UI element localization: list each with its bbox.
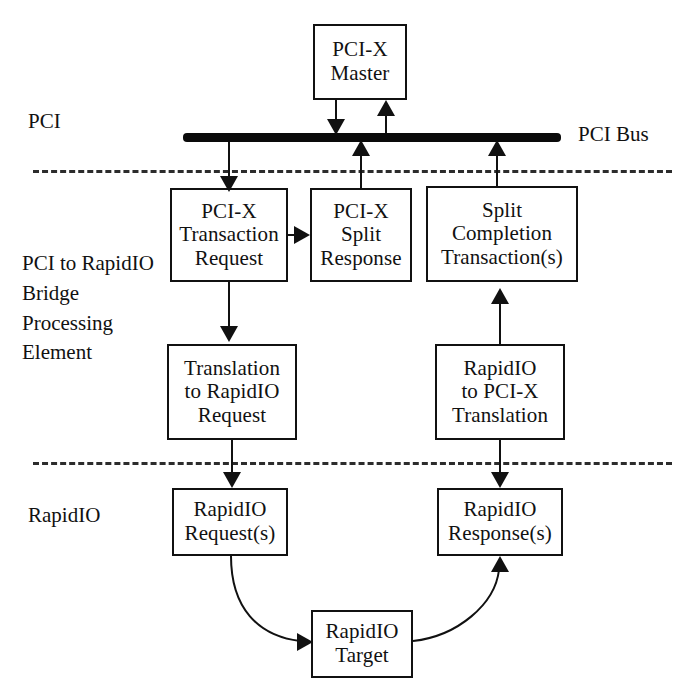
box-line: RapidIO: [463, 498, 536, 522]
box-line: to PCI-X: [461, 380, 538, 404]
box-line: Split: [482, 199, 522, 223]
box-line: RapidIO: [325, 620, 398, 644]
box-line: Master: [331, 62, 390, 86]
box-line: Request: [195, 247, 263, 271]
arrowhead-target-to-response: [491, 556, 509, 572]
arrowhead-bus-to-master: [377, 100, 395, 116]
region-label-pci: PCI: [28, 107, 61, 137]
box-rapidio-target[interactable]: RapidIO Target: [311, 610, 413, 678]
box-line: Completion: [452, 222, 552, 246]
box-line: RapidIO: [463, 357, 536, 381]
box-split-completion-transaction[interactable]: Split Completion Transaction(s): [426, 186, 578, 282]
arrowhead-rapidio-to-pci-x-to-split-completion: [491, 288, 509, 304]
arrowhead-translation-to-rapidio-request: [223, 472, 241, 488]
box-pci-x-master[interactable]: PCI-X Master: [313, 24, 407, 100]
arrowhead-transaction-request-to-split-response: [294, 226, 310, 244]
box-line: RapidIO: [193, 498, 266, 522]
box-rapidio-request[interactable]: RapidIO Request(s): [172, 488, 288, 556]
box-pci-x-transaction-request[interactable]: PCI-X Transaction Request: [170, 188, 288, 282]
box-line: Translation: [184, 357, 280, 381]
arrowhead-split-response-to-bus: [352, 140, 370, 156]
arrowhead-master-to-bus: [327, 119, 345, 135]
box-rapidio-response[interactable]: RapidIO Response(s): [437, 488, 563, 556]
box-line: Transaction(s): [441, 246, 563, 270]
box-line: Response(s): [448, 522, 552, 546]
arrowhead-request-to-target: [297, 633, 313, 651]
arrowhead-split-completion-to-bus: [488, 140, 506, 156]
box-line: Translation: [452, 404, 548, 428]
region-label-bridge: PCI to RapidIO Bridge Processing Element: [22, 249, 154, 368]
box-line: Response: [320, 247, 401, 271]
box-pci-x-split-response[interactable]: PCI-X Split Response: [310, 188, 412, 282]
box-line: PCI-X: [332, 38, 387, 62]
region-label-rapidio: RapidIO: [28, 501, 100, 531]
arrowhead-transaction-request-to-translation: [220, 326, 238, 342]
box-rapidio-to-pci-x-translation[interactable]: RapidIO to PCI-X Translation: [435, 344, 565, 440]
box-line: Request: [198, 404, 266, 428]
arrowhead-bus-to-transaction-request: [220, 176, 238, 192]
pci-bus-label: PCI Bus: [578, 120, 649, 150]
box-line: PCI-X: [333, 200, 388, 224]
box-line: Target: [335, 644, 389, 668]
box-translation-to-rapidio-request[interactable]: Translation to RapidIO Request: [167, 344, 297, 440]
box-line: Transaction: [179, 223, 279, 247]
box-line: to RapidIO: [185, 380, 280, 404]
box-line: Split: [341, 223, 381, 247]
diagram-canvas: PCI PCI to RapidIO Bridge Processing Ele…: [0, 0, 694, 698]
arrowhead-rapidio-translation-to-response: [491, 472, 509, 488]
box-line: PCI-X: [201, 200, 256, 224]
box-line: Request(s): [185, 522, 276, 546]
